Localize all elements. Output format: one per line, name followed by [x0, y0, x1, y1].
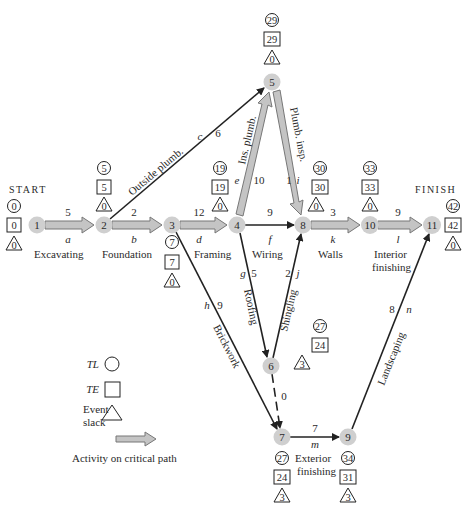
svg-text:h: h — [204, 299, 210, 311]
svg-text:0: 0 — [281, 390, 287, 402]
svg-text:0: 0 — [101, 201, 106, 212]
node-10: 10 — [361, 216, 379, 234]
svg-text:24: 24 — [315, 340, 326, 351]
node-9: 9 — [340, 429, 357, 446]
node-7: 7 — [274, 429, 291, 446]
legend: TL TE Event slack Activity on critical p… — [72, 357, 177, 464]
node-6: 6 — [263, 358, 280, 375]
svg-text:5: 5 — [101, 182, 106, 193]
svg-text:19: 19 — [215, 182, 226, 193]
svg-text:27: 27 — [315, 321, 326, 332]
svg-text:g: g — [240, 267, 246, 279]
critical-arrow-b — [112, 217, 162, 233]
svg-text:29: 29 — [267, 15, 278, 26]
legend-te-square-icon — [105, 382, 120, 397]
svg-text:Outside plumb.: Outside plumb. — [126, 145, 186, 198]
svg-text:29: 29 — [267, 34, 278, 45]
node-11: 11 — [423, 216, 441, 234]
svg-text:k: k — [331, 233, 337, 245]
svg-text:Roofing: Roofing — [242, 288, 261, 326]
svg-text:9: 9 — [395, 206, 401, 218]
svg-text:10: 10 — [365, 219, 377, 231]
svg-text:2: 2 — [131, 206, 137, 218]
svg-text:30: 30 — [315, 182, 326, 193]
node-1: 1 — [29, 217, 46, 234]
svg-text:0: 0 — [217, 201, 222, 212]
critical-arrow-a — [45, 217, 94, 233]
svg-text:27: 27 — [277, 453, 288, 464]
svg-text:33: 33 — [365, 163, 376, 174]
svg-text:slack: slack — [83, 416, 106, 428]
svg-text:3: 3 — [330, 206, 336, 218]
svg-text:Exterior: Exterior — [295, 452, 331, 464]
svg-text:10: 10 — [254, 174, 266, 186]
svg-text:3: 3 — [169, 219, 175, 231]
start-label: START — [9, 184, 47, 195]
svg-text:6: 6 — [268, 360, 274, 372]
legend-critical-label: Activity on critical path — [72, 452, 177, 464]
svg-text:7: 7 — [169, 257, 174, 268]
svg-text:finishing: finishing — [297, 465, 337, 477]
svg-text:j: j — [294, 267, 299, 279]
svg-text:1: 1 — [286, 174, 292, 186]
svg-text:b: b — [131, 233, 137, 245]
svg-text:42: 42 — [448, 201, 459, 212]
svg-text:5: 5 — [251, 267, 257, 279]
pert-network-diagram: 1 2 3 4 5 6 7 8 9 10 11 START FINISH 0 0… — [0, 0, 474, 522]
svg-text:8: 8 — [389, 303, 395, 315]
node-3: 3 — [164, 217, 181, 234]
svg-text:9: 9 — [267, 206, 273, 218]
svg-text:3: 3 — [345, 492, 350, 503]
svg-text:Event: Event — [83, 403, 109, 415]
node-5: 5 — [264, 74, 281, 91]
svg-text:n: n — [406, 303, 412, 315]
svg-text:0: 0 — [450, 240, 455, 251]
svg-text:Brickwork: Brickwork — [211, 322, 243, 370]
svg-text:0: 0 — [11, 201, 16, 212]
svg-text:d: d — [196, 233, 202, 245]
svg-text:Shingling: Shingling — [277, 288, 298, 333]
svg-text:5: 5 — [269, 76, 275, 88]
svg-text:m: m — [311, 438, 319, 450]
svg-text:Excavating: Excavating — [34, 248, 84, 260]
svg-text:4: 4 — [234, 219, 240, 231]
svg-text:7: 7 — [312, 422, 318, 434]
finish-label: FINISH — [415, 184, 456, 195]
svg-text:5: 5 — [65, 206, 71, 218]
legend-critical-arrow-icon — [116, 432, 156, 446]
svg-text:33: 33 — [365, 182, 376, 193]
svg-text:0: 0 — [169, 277, 174, 288]
svg-text:0: 0 — [313, 201, 318, 212]
svg-text:0: 0 — [11, 220, 16, 231]
svg-text:34: 34 — [343, 453, 354, 464]
critical-arrow-k — [311, 217, 360, 233]
svg-text:2: 2 — [285, 267, 291, 279]
svg-text:Interior: Interior — [374, 248, 407, 260]
svg-text:Wiring: Wiring — [252, 248, 283, 260]
svg-text:5: 5 — [101, 163, 106, 174]
svg-text:3: 3 — [279, 492, 284, 503]
node-8: 8 — [295, 217, 312, 234]
svg-text:7: 7 — [279, 431, 285, 443]
node-2: 2 — [96, 217, 113, 234]
legend-tl-label: TL — [87, 358, 99, 370]
svg-text:Foundation: Foundation — [102, 248, 153, 260]
svg-text:11: 11 — [427, 219, 438, 231]
svg-text:30: 30 — [315, 163, 326, 174]
legend-te-label: TE — [86, 383, 99, 395]
svg-text:e: e — [235, 174, 240, 186]
svg-text:i: i — [296, 174, 299, 186]
svg-text:42: 42 — [448, 220, 459, 231]
svg-text:l: l — [396, 233, 399, 245]
svg-text:9: 9 — [345, 431, 351, 443]
svg-text:0: 0 — [11, 240, 16, 251]
legend-tl-circle-icon — [105, 357, 119, 371]
node-4: 4 — [229, 217, 246, 234]
svg-text:a: a — [65, 233, 71, 245]
svg-text:2: 2 — [101, 219, 107, 231]
svg-text:31: 31 — [343, 472, 354, 483]
svg-text:Walls: Walls — [318, 248, 343, 260]
critical-arrow-d — [180, 217, 227, 233]
svg-text:0: 0 — [367, 201, 372, 212]
svg-text:finishing: finishing — [372, 261, 412, 273]
